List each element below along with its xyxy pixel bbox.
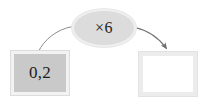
operation-label: ×6 xyxy=(95,20,113,37)
arrow-operation-to-output xyxy=(135,28,167,49)
input-value-label: 0,2 xyxy=(29,64,51,82)
output-answer-box[interactable] xyxy=(139,52,197,96)
input-value-box[interactable]: 0,2 xyxy=(11,51,69,95)
function-machine-diagram: 0,2 ×6 xyxy=(0,0,201,102)
operation-bubble: ×6 xyxy=(72,9,136,47)
arrow-input-to-operation xyxy=(39,27,73,52)
